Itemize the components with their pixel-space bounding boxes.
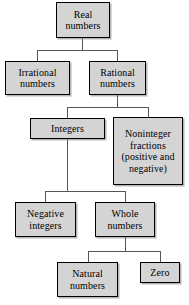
node-zero-label: Zero [148, 267, 171, 279]
node-negative-integers[interactable]: Negative integers [15, 202, 76, 237]
node-integers-label: Integers [49, 123, 86, 135]
node-irrational-numbers-label: Irrational numbers [16, 67, 58, 90]
node-real-numbers[interactable]: Real numbers [56, 2, 110, 38]
node-real-numbers-label: Real numbers [63, 9, 102, 32]
connector-integers-stem [67, 139, 68, 192]
node-whole-numbers-label: Whole numbers [105, 208, 144, 231]
connector-whole-stem [125, 237, 126, 251]
node-rational-numbers-label: Rational numbers [98, 67, 137, 90]
connector-whole-bar [88, 251, 160, 252]
node-whole-numbers[interactable]: Whole numbers [95, 202, 155, 237]
node-rational-numbers[interactable]: Rational numbers [89, 61, 146, 95]
connector-to-negative-integers [45, 191, 46, 202]
node-noninteger-fractions[interactable]: Noninteger fractions (positive and negat… [113, 117, 183, 185]
connector-to-irrational [37, 50, 38, 61]
connector-to-natural-numbers [88, 251, 89, 262]
connector-to-zero [160, 251, 161, 262]
node-natural-numbers[interactable]: Natural numbers [57, 262, 118, 297]
connector-to-noninteger-fractions [148, 107, 149, 117]
connector-integers-bar [45, 191, 126, 192]
connector-to-whole-numbers [125, 191, 126, 202]
node-integers[interactable]: Integers [30, 118, 105, 139]
connector-rational-bar [67, 107, 148, 108]
node-irrational-numbers[interactable]: Irrational numbers [5, 61, 70, 95]
node-negative-integers-label: Negative integers [25, 208, 66, 231]
node-natural-numbers-label: Natural numbers [68, 268, 107, 291]
node-noninteger-fractions-label: Noninteger fractions (positive and negat… [119, 128, 176, 174]
real-number-classification-diagram: Real numbers Irrational numbers Rational… [0, 0, 189, 305]
node-zero[interactable]: Zero [140, 262, 180, 283]
connector-real-bar [37, 50, 118, 51]
connector-to-rational [117, 50, 118, 61]
connector-to-integers [67, 107, 68, 118]
